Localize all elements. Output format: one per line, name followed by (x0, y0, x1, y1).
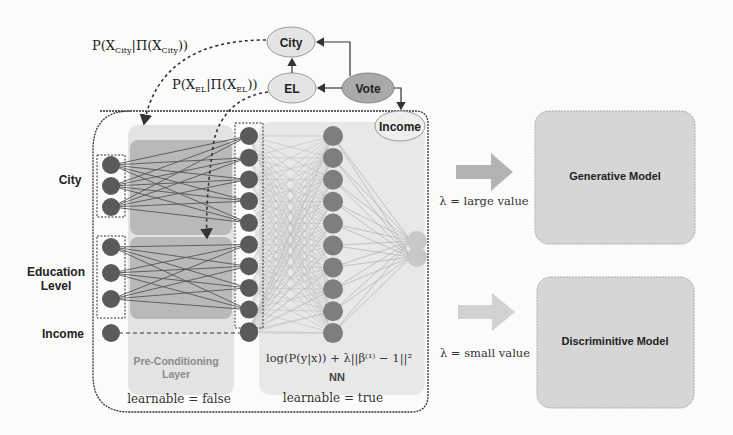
node-city-label: City (280, 36, 303, 50)
preconditioning-title-1: Pre-Conditioning (133, 355, 218, 367)
diagram-svg: City EL Vote Income P(XCity|Π(XCity)) P(… (0, 0, 733, 435)
hidden-node (323, 301, 343, 321)
precond-output-node (240, 236, 258, 254)
precond-output-node (240, 170, 258, 188)
nn-loss-formula: log(P(y|x)) + λ||β⁽¹⁾ − 1||² (266, 351, 412, 366)
preconditioning-title-2: Layer (162, 368, 190, 380)
arrow-small-lambda (458, 293, 515, 331)
nn-learnable: learnable = true (283, 391, 383, 405)
input-node-education (102, 238, 120, 256)
precond-output-node (240, 279, 258, 297)
arrow-large-lambda (456, 153, 513, 191)
hidden-node (323, 170, 343, 190)
edge-vote-income (394, 88, 401, 109)
input-label-income: Income (42, 327, 84, 341)
edge-vote-city (317, 42, 350, 76)
nn-title: NN (329, 371, 345, 383)
hidden-node (323, 192, 343, 212)
precond-output-node (240, 301, 258, 319)
node-el-label: EL (284, 82, 299, 96)
input-label-education-1: Education (27, 265, 85, 279)
input-label-city: City (59, 173, 82, 187)
hidden-node (323, 236, 343, 256)
input-label-education-2: Level (41, 279, 72, 293)
hidden-node (323, 126, 343, 146)
formula-el: P(XEL|Π(XEL)) (172, 77, 258, 94)
formula-city: P(XCity|Π(XCity)) (92, 38, 188, 55)
input-node-income (102, 324, 120, 342)
hidden-node (323, 214, 343, 234)
diagram-canvas: City EL Vote Income P(XCity|Π(XCity)) P(… (0, 0, 733, 435)
lambda-small-label: λ = small value (440, 346, 530, 360)
precond-output-node (240, 127, 258, 145)
hidden-node (323, 257, 343, 277)
preconditioning-learnable: learnable = false (127, 392, 231, 406)
input-node-education (102, 290, 120, 308)
input-node-city (102, 156, 120, 174)
input-node-city (102, 198, 120, 216)
node-vote-label: Vote (355, 82, 380, 96)
output-node (407, 247, 427, 267)
input-node-city (102, 177, 120, 195)
node-income-label: Income (379, 120, 421, 134)
precond-output-node (240, 257, 258, 275)
discriminitive-model-label: Discriminitive Model (562, 335, 669, 347)
lambda-large-label: λ = large value (439, 194, 529, 208)
generative-model-label: Generative Model (569, 170, 661, 182)
hidden-node (323, 148, 343, 168)
input-node-education (102, 264, 120, 282)
precond-output-node (240, 192, 258, 210)
precond-output-node (240, 149, 258, 167)
hidden-node (323, 279, 343, 299)
precond-output-node (240, 214, 258, 232)
precond-income-node (240, 324, 258, 342)
hidden-node (323, 323, 343, 343)
